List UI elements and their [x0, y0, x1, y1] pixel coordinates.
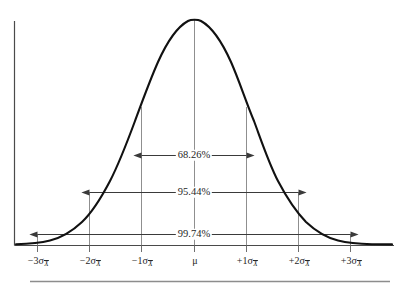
band-label-95: 95.44%: [176, 187, 212, 198]
mu-glyph: μ: [192, 255, 197, 266]
tick-label-plus-1-sigma: +1σX: [237, 256, 257, 266]
tick-label-plus-3-sigma: +3σX: [341, 256, 361, 266]
tick-label-mu: μ: [192, 256, 197, 266]
sigma-guide-lines: [38, 20, 351, 245]
band-label-99: 99.74%: [176, 229, 212, 240]
normal-curve-figure: 68.26% 95.44% 99.74% −3σX −2σX −1σX μ +1…: [0, 0, 406, 293]
x-bar-glyph: X: [305, 261, 309, 268]
normal-curve-canvas: [0, 0, 406, 293]
tick-label-minus-2-sigma: −2σX: [80, 256, 100, 266]
x-bar-glyph: X: [357, 261, 361, 268]
x-bar-glyph: X: [253, 261, 257, 268]
axis-tick-marks: [38, 246, 351, 253]
x-bar-glyph: X: [96, 261, 100, 268]
band-label-68: 68.26%: [176, 150, 212, 161]
normal-distribution-curve: [16, 20, 392, 245]
x-bar-glyph: X: [44, 261, 48, 268]
tick-label-minus-3-sigma: −3σX: [28, 256, 48, 266]
tick-label-minus-1-sigma: −1σX: [132, 256, 152, 266]
tick-label-plus-2-sigma: +2σX: [289, 256, 309, 266]
x-bar-glyph: X: [148, 261, 152, 268]
